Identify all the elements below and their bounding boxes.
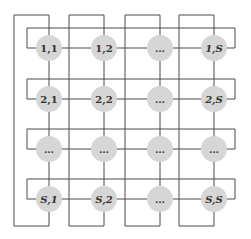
nodes: 1,11,2…1,S2,12,2…2,S…………S,1S,2…S,S (36, 35, 227, 212)
node-4-1: S,1 (36, 186, 62, 212)
node-3-4: … (201, 136, 227, 162)
node-label: S,1 (40, 194, 57, 206)
node-label: S,2 (95, 194, 112, 206)
node-label: 2,S (204, 94, 223, 106)
torus-grid-diagram: 1,11,2…1,S2,12,2…2,S…………S,1S,2…S,S (0, 0, 251, 239)
node-label: 1,1 (40, 43, 57, 55)
node-4-2: S,2 (91, 186, 117, 212)
node-label: 2,2 (95, 94, 112, 106)
node-3-2: … (91, 136, 117, 162)
node-label: … (99, 144, 109, 155)
node-3-3: … (147, 136, 173, 162)
node-label: … (155, 144, 165, 155)
node-4-3: … (147, 186, 173, 212)
node-label: … (209, 144, 219, 155)
node-2-1: 2,1 (36, 86, 62, 112)
node-1-2: 1,2 (91, 35, 117, 61)
node-4-4: S,S (201, 186, 227, 212)
node-label: 1,2 (95, 43, 112, 55)
node-label: 2,1 (40, 94, 57, 106)
node-label: … (44, 144, 54, 155)
node-label: … (155, 43, 165, 54)
node-1-3: … (147, 35, 173, 61)
node-label: S,S (205, 194, 223, 206)
node-2-4: 2,S (201, 86, 227, 112)
node-label: … (155, 194, 165, 205)
node-label: … (155, 94, 165, 105)
node-2-3: … (147, 86, 173, 112)
node-3-1: … (36, 136, 62, 162)
node-2-2: 2,2 (91, 86, 117, 112)
node-1-1: 1,1 (36, 35, 62, 61)
node-1-4: 1,S (201, 35, 227, 61)
node-label: 1,S (205, 43, 223, 55)
